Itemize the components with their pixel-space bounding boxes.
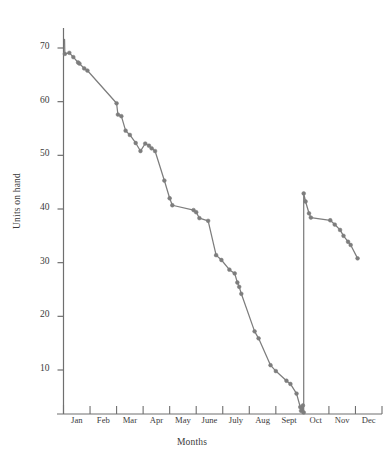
data-point: [274, 369, 278, 373]
data-point: [235, 281, 239, 285]
data-point: [63, 52, 67, 56]
y-tick-label: 60: [24, 95, 50, 105]
data-point: [295, 392, 299, 396]
y-tick-label: 20: [24, 309, 50, 319]
data-point: [333, 223, 337, 227]
data-point: [115, 101, 119, 105]
data-point: [309, 216, 313, 220]
data-point: [227, 268, 231, 272]
data-point: [78, 62, 82, 66]
data-point: [302, 411, 306, 415]
data-point: [289, 382, 293, 386]
inventory-line-chart: Units on hand Months 10203040506070 JanF…: [0, 0, 384, 463]
y-tick-label: 40: [24, 202, 50, 212]
data-point: [150, 146, 154, 150]
y-axis-title: Units on hand: [12, 156, 22, 246]
data-point: [307, 211, 311, 215]
data-point: [214, 253, 218, 257]
y-tick-label: 50: [24, 148, 50, 158]
data-point: [168, 196, 172, 200]
data-point: [119, 114, 123, 118]
data-point: [349, 243, 353, 247]
y-tick-label: 70: [24, 41, 50, 51]
data-point: [139, 149, 143, 153]
data-point: [128, 133, 132, 137]
data-point: [269, 363, 273, 367]
data-point: [301, 404, 305, 408]
data-point: [233, 272, 237, 276]
data-point: [285, 379, 289, 383]
data-point: [153, 149, 157, 153]
data-point: [304, 200, 308, 204]
data-point: [197, 216, 201, 220]
data-point: [239, 292, 243, 296]
data-point: [71, 55, 75, 59]
data-point: [67, 51, 71, 55]
data-point: [346, 240, 350, 244]
data-point: [302, 192, 306, 196]
data-point: [206, 219, 210, 223]
y-tick-label: 10: [24, 363, 50, 373]
data-point: [134, 141, 138, 145]
chart-plot-area: [0, 0, 384, 463]
data-point: [85, 69, 89, 73]
data-point: [356, 256, 360, 260]
series-line-0: [65, 39, 358, 412]
data-point: [237, 285, 241, 289]
data-point: [194, 210, 198, 214]
data-point: [162, 179, 166, 183]
data-point: [253, 329, 257, 333]
x-tick-label-dec: Dec: [345, 415, 384, 425]
y-tick-label: 30: [24, 256, 50, 266]
x-axis-title: Months: [0, 437, 384, 447]
data-point: [338, 228, 342, 232]
data-point: [328, 218, 332, 222]
data-point: [257, 336, 261, 340]
data-point: [170, 203, 174, 207]
data-point: [124, 129, 128, 133]
data-point: [143, 142, 147, 146]
data-point: [342, 234, 346, 238]
data-point: [220, 258, 224, 262]
